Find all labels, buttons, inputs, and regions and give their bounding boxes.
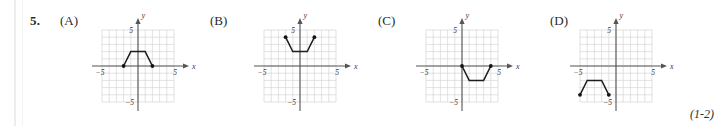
graph-c[interactable]: xy−555−5 (408, 22, 516, 118)
y-tick-5: 5 (129, 26, 133, 35)
y-tick-5: 5 (607, 26, 611, 35)
endpoint-dot (489, 64, 493, 68)
x-axis-label: x (191, 62, 196, 71)
axes (254, 18, 351, 111)
y-tick-neg5: −5 (287, 98, 296, 107)
answer-choice-a-label: (A) (60, 13, 78, 29)
x-tick-5: 5 (173, 68, 177, 77)
endpoint-dot (607, 93, 611, 97)
y-tick-neg5: −5 (449, 98, 458, 107)
graph-b[interactable]: xy−555−5 (246, 22, 354, 118)
x-tick-neg5: −5 (574, 68, 583, 77)
x-axis-label: x (515, 62, 520, 71)
coordinate-plane-d: xy−555−5 (562, 22, 670, 118)
axes (570, 18, 667, 111)
x-axis-label: x (669, 62, 674, 71)
y-tick-neg5: −5 (603, 98, 612, 107)
answer-choice-b[interactable]: (B) xy−555−5 (200, 0, 370, 126)
worksheet-problem: 5. (A) xy−555−5 (B) xy−555−5 (C) xy−555−… (0, 0, 724, 126)
y-axis-label: y (141, 11, 146, 20)
graph-a[interactable]: xy−555−5 (84, 22, 192, 118)
x-tick-5: 5 (497, 68, 501, 77)
endpoint-dot (460, 64, 464, 68)
answer-choice-b-label: (B) (210, 13, 227, 29)
y-axis-label: y (465, 11, 470, 20)
axes (416, 18, 513, 111)
answer-choice-a[interactable]: (A) xy−555−5 (0, 0, 200, 126)
y-tick-neg5: −5 (125, 98, 134, 107)
endpoint-dot (122, 64, 126, 68)
endpoint-dot (313, 35, 317, 39)
coordinate-plane-a: xy−555−5 (84, 22, 192, 118)
endpoint-dot (151, 64, 155, 68)
y-tick-5: 5 (453, 26, 457, 35)
x-tick-5: 5 (335, 68, 339, 77)
coordinate-plane-b: xy−555−5 (246, 22, 354, 118)
x-tick-5: 5 (651, 68, 655, 77)
answer-choice-c[interactable]: (C) xy−555−5 (370, 0, 542, 126)
endpoint-dot (578, 93, 582, 97)
axes (92, 18, 189, 111)
graph-d[interactable]: xy−555−5 (562, 22, 670, 118)
x-tick-neg5: −5 (258, 68, 267, 77)
y-axis-label: y (619, 11, 624, 20)
x-tick-neg5: −5 (96, 68, 105, 77)
coordinate-plane-c: xy−555−5 (408, 22, 516, 118)
y-axis-label: y (303, 11, 308, 20)
x-tick-neg5: −5 (420, 68, 429, 77)
x-axis-label: x (353, 62, 358, 71)
endpoint-dot (284, 35, 288, 39)
y-tick-5: 5 (291, 26, 295, 35)
answer-choice-c-label: (C) (378, 13, 395, 29)
footnote-reference: (1-2) (690, 107, 714, 122)
